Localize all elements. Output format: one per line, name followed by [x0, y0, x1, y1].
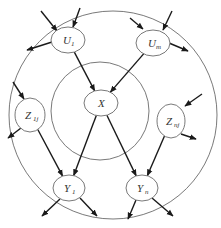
node-Znj: Znj — [157, 104, 185, 138]
nodes: U1UmXZ1jZnjY1Yn — [15, 27, 185, 201]
node-Y1: Y1 — [53, 175, 85, 201]
incoming-Znj-arrow-icon — [185, 94, 202, 106]
node-X: X — [84, 90, 118, 116]
outgoing-Yn-arrow-icon — [128, 200, 136, 219]
node-Yn: Yn — [126, 175, 158, 201]
edge-U1-to-X-arrow-icon — [74, 52, 94, 91]
node-Um: Um — [136, 30, 170, 56]
outgoing-Um-arrow-icon — [169, 43, 188, 51]
edge-Znj-to-Yn-arrow-icon — [147, 136, 164, 176]
outgoing-Y1-arrow-icon — [80, 198, 97, 216]
edge-X-to-Y1-arrow-icon — [74, 115, 97, 175]
node-subscript: 1j — [33, 115, 39, 123]
diagram-canvas: U1UmXZ1jZnjY1Yn — [0, 0, 221, 228]
incoming-U1-arrow-icon — [73, 8, 80, 27]
node-Z1j: Z1j — [15, 98, 45, 132]
node-label: Z — [166, 115, 173, 127]
incoming-Z1j-arrow-icon — [13, 82, 24, 99]
node-U1: U1 — [51, 27, 85, 53]
edge-Z1j-to-Y1-arrow-icon — [38, 130, 63, 177]
node-subscript: nj — [174, 121, 180, 129]
outgoing-U1-arrow-icon — [27, 42, 52, 50]
edge-X-to-Yn-arrow-icon — [107, 115, 136, 176]
node-label: Z — [25, 109, 32, 121]
node-subscript: 1 — [72, 188, 76, 196]
node-label: X — [97, 97, 106, 109]
node-subscript: m — [156, 43, 161, 51]
outgoing-Znj-arrow-icon — [181, 134, 196, 139]
incoming-Um-arrow-icon — [130, 18, 143, 29]
edge-Um-to-X-arrow-icon — [110, 54, 143, 92]
node-subscript: 1 — [71, 40, 75, 48]
outgoing-Y1-arrow-icon — [42, 199, 60, 216]
incoming-Um-arrow-icon — [163, 11, 172, 30]
incoming-U1-arrow-icon — [41, 11, 57, 31]
outgoing-Yn-arrow-icon — [152, 198, 173, 216]
node-subscript: n — [145, 188, 149, 196]
